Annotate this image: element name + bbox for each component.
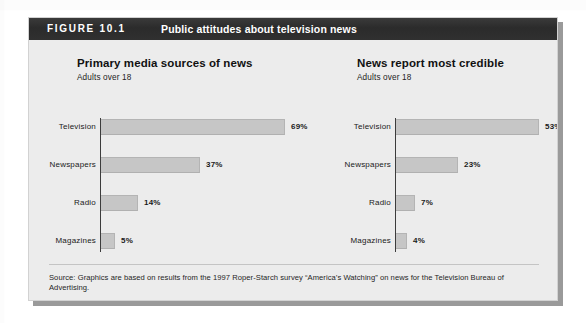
bar-category-label: Television bbox=[321, 122, 391, 131]
bar-chart-plot-area: Television 69% Newspapers 37% Radio 14% … bbox=[29, 95, 307, 253]
chart-subtitle: Adults over 18 bbox=[357, 73, 411, 82]
bar-row: Newspapers 23% bbox=[307, 156, 558, 174]
bar-row: Magazines 5% bbox=[29, 232, 307, 250]
bar-value-label: 23% bbox=[464, 160, 481, 169]
bar-row: Radio 7% bbox=[307, 194, 558, 212]
bar-row: Television 69% bbox=[29, 118, 307, 136]
chart-panel-primary-media-sources: Primary media sources of news Adults ove… bbox=[29, 40, 307, 260]
bar-category-label: Television bbox=[29, 122, 96, 131]
figure-caption: Public attitudes about television news bbox=[161, 23, 357, 35]
bar-category-label: Radio bbox=[29, 198, 96, 207]
bar-value-label: 37% bbox=[206, 160, 223, 169]
bar-rect bbox=[101, 157, 200, 173]
bar-value-label: 4% bbox=[413, 236, 425, 245]
source-note: Source: Graphics are based on results fr… bbox=[49, 273, 545, 294]
chart-subtitle: Adults over 18 bbox=[77, 73, 131, 82]
bar-chart-plot-area: Television 53% Newspapers 23% Radio 7% M… bbox=[307, 95, 558, 253]
bar-rect bbox=[101, 119, 285, 135]
bar-value-label: 14% bbox=[144, 198, 161, 207]
bar-row: Magazines 4% bbox=[307, 232, 558, 250]
bar-rect bbox=[396, 157, 458, 173]
bar-rect bbox=[101, 195, 138, 211]
bar-category-label: Magazines bbox=[29, 236, 96, 245]
figure-body: Primary media sources of news Adults ove… bbox=[29, 40, 557, 301]
figure-container: FIGURE 10.1 Public attitudes about telev… bbox=[28, 17, 558, 301]
bar-value-label: 5% bbox=[121, 236, 133, 245]
chart-panel-news-report-most-credible: News report most credible Adults over 18… bbox=[307, 40, 558, 260]
bar-rect bbox=[396, 233, 407, 249]
bar-row: Radio 14% bbox=[29, 194, 307, 212]
bar-rect bbox=[101, 233, 115, 249]
bar-value-label: 7% bbox=[421, 198, 433, 207]
bar-category-label: Newspapers bbox=[321, 160, 391, 169]
source-divider bbox=[49, 264, 539, 265]
bar-value-label: 69% bbox=[291, 122, 308, 131]
bar-rect bbox=[396, 119, 539, 135]
figure-header-bar: FIGURE 10.1 Public attitudes about telev… bbox=[29, 18, 557, 40]
bar-row: Newspapers 37% bbox=[29, 156, 307, 174]
chart-title: Primary media sources of news bbox=[77, 57, 252, 69]
figure-number-label: FIGURE 10.1 bbox=[47, 23, 126, 34]
bar-category-label: Newspapers bbox=[29, 160, 96, 169]
bar-rect bbox=[396, 195, 415, 211]
bar-category-label: Magazines bbox=[321, 236, 391, 245]
bar-category-label: Radio bbox=[321, 198, 391, 207]
bar-row: Television 53% bbox=[307, 118, 558, 136]
chart-title: News report most credible bbox=[357, 57, 504, 69]
bar-value-label: 53% bbox=[545, 122, 558, 131]
